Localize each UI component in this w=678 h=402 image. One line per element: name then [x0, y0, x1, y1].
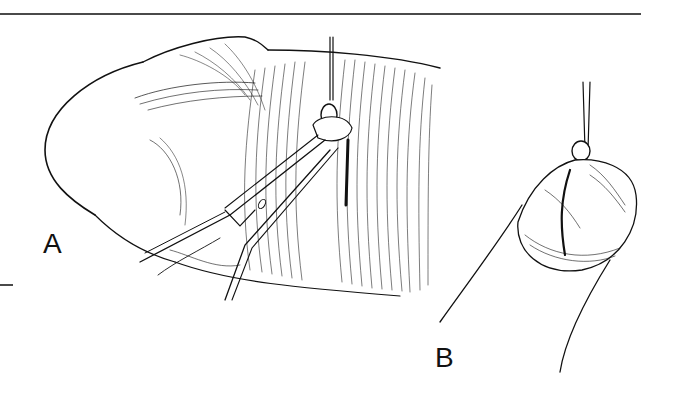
panel-a-scissors [140, 135, 338, 300]
panel-a-finger [45, 37, 440, 296]
illustration-page: A B [0, 0, 678, 402]
surgical-illustration [0, 0, 678, 402]
panel-label-a: A [43, 230, 62, 258]
panel-label-b: B [435, 344, 454, 372]
panel-a-retractor [313, 37, 352, 205]
panel-b-finger [440, 82, 637, 372]
panel-a-hatching [245, 60, 432, 292]
